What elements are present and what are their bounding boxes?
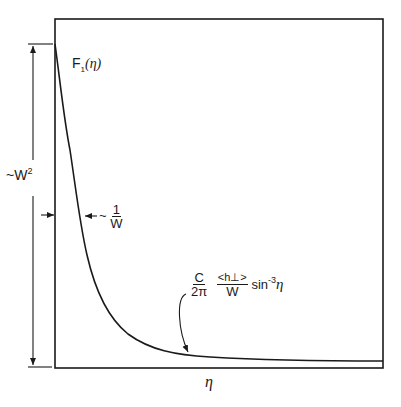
c-denominator: 2π	[191, 285, 207, 298]
function-name: F	[72, 55, 81, 71]
width-label: ~ 1 W	[99, 203, 123, 230]
height-label-sup: 2	[27, 166, 32, 176]
function-label: F1(η)	[72, 55, 101, 74]
width-denominator: W	[110, 217, 122, 230]
height-label-text: ~W	[6, 167, 27, 183]
asymptote-label: C 2π <h⊥> W sin-3η	[191, 271, 284, 298]
width-fraction: 1 W	[110, 203, 122, 230]
asymptote-leader-arrow	[179, 294, 188, 352]
c-fraction: C 2π	[191, 271, 207, 298]
function-arg: (η)	[85, 56, 101, 71]
height-label: ~W2	[6, 166, 32, 183]
sin-text: sin	[251, 277, 268, 292]
x-axis-label: η	[205, 373, 213, 391]
figure-canvas	[0, 0, 401, 407]
width-numerator: 1	[112, 203, 121, 217]
sin-variable: η	[276, 276, 283, 292]
h-fraction: <h⊥> W	[217, 271, 248, 298]
sin-exponent: -3	[268, 275, 276, 285]
width-label-prefix: ~	[99, 208, 107, 223]
h-numerator: <h⊥>	[217, 271, 248, 285]
plot-frame	[55, 19, 383, 368]
h-denominator: W	[226, 285, 238, 298]
c-numerator: C	[193, 271, 204, 285]
